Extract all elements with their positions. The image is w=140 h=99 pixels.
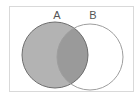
venn-diagram: A B	[0, 0, 140, 99]
set-b-label: B	[89, 9, 96, 21]
set-a-label: A	[53, 9, 61, 21]
venn-svg: A B	[0, 0, 140, 99]
